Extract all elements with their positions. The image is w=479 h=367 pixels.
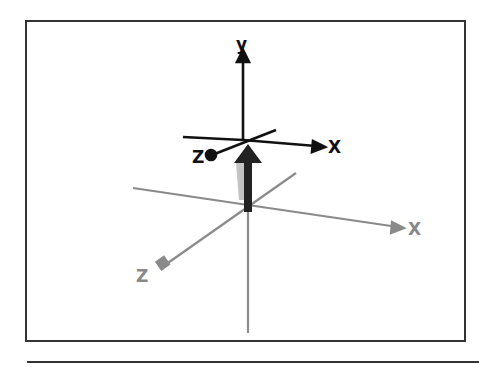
world-x-arrowhead-icon — [391, 222, 404, 233]
local-y-label: y — [236, 34, 247, 54]
local-x-axis-negative — [183, 137, 243, 140]
world-x-axis-negative — [133, 188, 248, 205]
local-z-endpoint-icon — [206, 150, 216, 160]
local-x-axis — [243, 140, 316, 146]
world-z-axis — [165, 173, 296, 265]
world-x-label: X — [408, 219, 421, 239]
local-axes — [183, 50, 325, 160]
axes-diagram: X Z y X Z — [0, 0, 479, 367]
world-axes — [133, 173, 404, 333]
local-x-label: X — [328, 137, 341, 157]
world-z-label: Z — [136, 266, 148, 286]
world-z-endpoint-icon — [156, 257, 169, 270]
local-z-label: Z — [192, 147, 204, 167]
world-x-axis — [248, 205, 398, 227]
local-x-arrowhead-icon — [312, 141, 325, 152]
arrow-shadow — [236, 163, 244, 200]
up-arrow — [234, 144, 262, 212]
